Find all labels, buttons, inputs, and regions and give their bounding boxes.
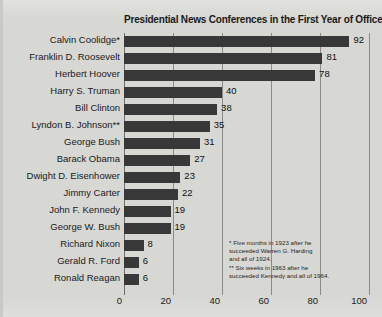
footnote-line: ** Six weeks in 1963 after he <box>229 264 369 272</box>
bar-row: Lyndon B. Johnson**35 <box>124 118 369 135</box>
bar-value-label: 22 <box>182 187 193 198</box>
bar-value-label: 6 <box>143 255 148 266</box>
category-label: Barack Obama <box>0 153 120 164</box>
bar <box>124 104 217 115</box>
bar-value-label: 31 <box>204 136 215 147</box>
bar-row: George W. Bush19 <box>124 220 369 237</box>
category-label: Herbert Hoover <box>0 68 120 79</box>
bar <box>124 223 171 234</box>
bar-row: Calvin Coolidge*92 <box>124 33 369 50</box>
bar-value-label: 35 <box>214 119 225 130</box>
chart-page: Presidential News Conferences in the Fir… <box>0 0 382 317</box>
bar-row: Jimmy Carter22 <box>124 186 369 203</box>
x-tick-40: 40 <box>209 295 222 306</box>
category-label: John F. Kennedy <box>0 204 120 215</box>
bar <box>124 189 178 200</box>
bar-value-label: 6 <box>143 272 148 283</box>
x-tick-100: 100 <box>351 295 369 306</box>
gridline-100 <box>369 33 370 295</box>
bar <box>124 240 144 251</box>
x-tick-0: 0 <box>117 295 124 306</box>
x-axis-tick-labels: 020406080100 <box>124 295 374 309</box>
category-label: Richard Nixon <box>0 238 120 249</box>
bar-row: John F. Kennedy19 <box>124 203 369 220</box>
category-label: Franklin D. Roosevelt <box>0 51 120 62</box>
bar <box>124 206 171 217</box>
category-label: Lyndon B. Johnson** <box>0 119 120 130</box>
bar-row: Herbert Hoover78 <box>124 67 369 84</box>
chart-footnotes: * Five months in 1923 after hesucceeded … <box>229 239 369 280</box>
footnote-line: succeeded Kennedy and all of 1964. <box>229 272 369 280</box>
bar-value-label: 78 <box>319 68 330 79</box>
x-tick-20: 20 <box>160 295 173 306</box>
bar-value-label: 38 <box>221 102 232 113</box>
x-tick-80: 80 <box>307 295 320 306</box>
bar-row: George Bush31 <box>124 135 369 152</box>
bar-value-label: 81 <box>326 51 337 62</box>
footnote-line: succeeded Warren G. Harding <box>229 247 369 255</box>
bar-row: Harry S. Truman40 <box>124 84 369 101</box>
bar <box>124 138 200 149</box>
category-label: Dwight D. Eisenhower <box>0 170 120 181</box>
bar-value-label: 92 <box>353 34 364 45</box>
category-label: Ronald Reagan <box>0 272 120 283</box>
category-label: Gerald R. Ford <box>0 255 120 266</box>
bar <box>124 274 139 285</box>
bar-row: Bill Clinton38 <box>124 101 369 118</box>
category-label: George Bush <box>0 136 120 147</box>
bar <box>124 155 190 166</box>
bar <box>124 121 210 132</box>
bar-value-label: 8 <box>148 238 153 249</box>
bar-value-label: 19 <box>175 221 186 232</box>
chart-title: Presidential News Conferences in the Fir… <box>124 14 376 25</box>
bar-row: Franklin D. Roosevelt81 <box>124 50 369 67</box>
bar-value-label: 27 <box>194 153 205 164</box>
bar-value-label: 23 <box>184 170 195 181</box>
bar <box>124 172 180 183</box>
x-tick-60: 60 <box>258 295 271 306</box>
bar <box>124 36 349 47</box>
category-label: Jimmy Carter <box>0 187 120 198</box>
bar-row: Dwight D. Eisenhower23 <box>124 169 369 186</box>
category-label: Calvin Coolidge* <box>0 34 120 45</box>
footnote-line: and all of 1924. <box>229 255 369 263</box>
footnote-line: * Five months in 1923 after he <box>229 239 369 247</box>
bar-value-label: 19 <box>175 204 186 215</box>
bar <box>124 257 139 268</box>
bar <box>124 87 222 98</box>
bar-row: Barack Obama27 <box>124 152 369 169</box>
bar-value-label: 40 <box>226 85 237 96</box>
bar <box>124 70 315 81</box>
bar <box>124 53 322 64</box>
category-label: George W. Bush <box>0 221 120 232</box>
category-label: Harry S. Truman <box>0 85 120 96</box>
category-label: Bill Clinton <box>0 102 120 113</box>
